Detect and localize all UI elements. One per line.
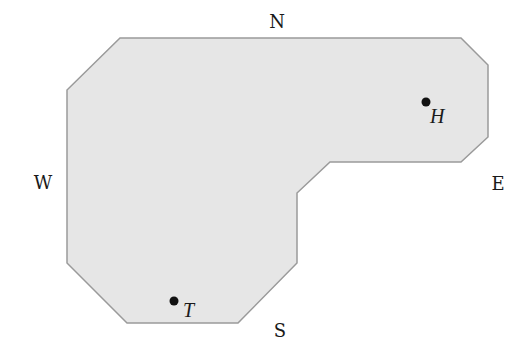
compass-south-label: S (274, 320, 286, 341)
region-shape (67, 38, 488, 323)
diagram-canvas: N S W E H T (0, 0, 530, 358)
compass-east-label: E (491, 173, 504, 194)
compass-west-label: W (34, 172, 53, 193)
compass-north-label: N (269, 11, 285, 32)
point-t-marker (170, 297, 179, 306)
point-t-label: T (183, 299, 196, 321)
point-h-label: H (429, 105, 446, 127)
